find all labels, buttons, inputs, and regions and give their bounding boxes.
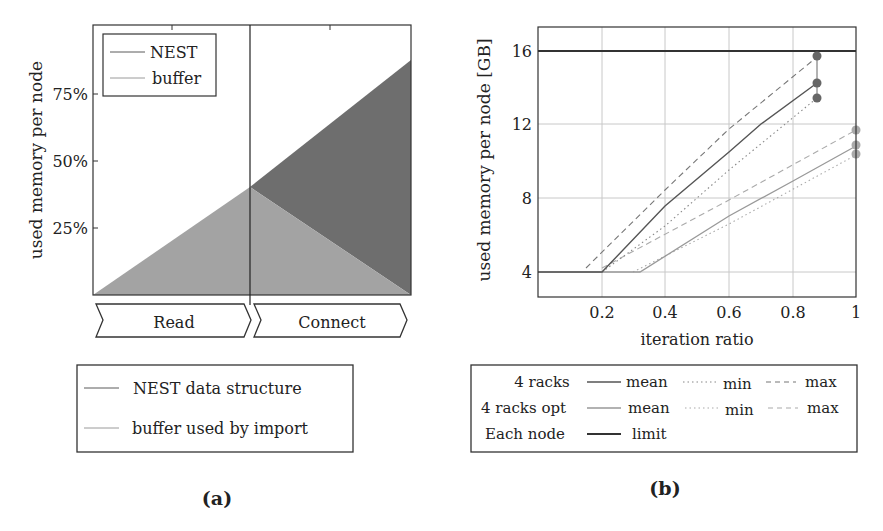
series-4-racks-mean bbox=[538, 83, 817, 272]
phase-label-read: Read bbox=[153, 313, 194, 332]
legend-label-nest-data-structure: NEST data structure bbox=[133, 379, 302, 398]
chart-b-xtick-1: 1 bbox=[851, 303, 861, 322]
legend-label-nest: NEST bbox=[150, 43, 198, 62]
legend-label-buffer-used-by-import: buffer used by import bbox=[132, 419, 309, 438]
chart-b-frame bbox=[538, 27, 856, 297]
chart-b-grid bbox=[538, 27, 856, 297]
legend-group-4-racks-opt: 4 racks opt bbox=[481, 399, 566, 417]
caption-a: (a) bbox=[202, 487, 232, 509]
chart-b-ylabel: used memory per node [GB] bbox=[474, 38, 494, 281]
chart-b-ytick-16: 16 bbox=[512, 42, 532, 61]
legend-group-4-racks: 4 racks bbox=[514, 373, 570, 391]
legend-4-racks-opt-max: max bbox=[807, 399, 839, 417]
series-4-racks-opt-min bbox=[633, 155, 856, 272]
chart-a: used memory per node 25% 50% 75% NEST bu… bbox=[0, 0, 450, 531]
phase-label-connect: Connect bbox=[298, 313, 366, 332]
legend-4-racks-max: max bbox=[805, 373, 837, 391]
chart-a-ytick-50: 50% bbox=[52, 152, 88, 171]
chart-b-xtick-0.2: 0.2 bbox=[589, 303, 614, 322]
legend-label-buffer: buffer bbox=[152, 69, 201, 88]
chart-a-ytick-25: 25% bbox=[52, 219, 88, 238]
legend-group-each-node: Each node bbox=[485, 425, 565, 443]
legend-4-racks-opt-min: min bbox=[725, 401, 754, 419]
chart-b-ytick-12: 12 bbox=[512, 115, 532, 134]
chart-b-xtick-0.8: 0.8 bbox=[780, 303, 805, 322]
marker-4-racks-max bbox=[813, 52, 822, 61]
legend-4-racks-opt-mean: mean bbox=[628, 399, 670, 417]
chart-b-xtick-0.6: 0.6 bbox=[716, 303, 741, 322]
series-4-racks-max bbox=[586, 57, 817, 268]
marker-4-racks-mean bbox=[813, 79, 822, 88]
chart-a-ytick-75: 75% bbox=[52, 85, 88, 104]
legend-4-racks-mean: mean bbox=[626, 373, 668, 391]
chart-b-xtick-0.4: 0.4 bbox=[652, 303, 677, 322]
series-4-racks-opt-mean bbox=[538, 146, 856, 272]
chart-a-ylabel: used memory per node bbox=[26, 61, 46, 259]
legend-each-node-limit: limit bbox=[632, 425, 667, 443]
chart-b-xlabel: iteration ratio bbox=[640, 330, 753, 349]
legend-4-racks-min: min bbox=[723, 375, 752, 393]
marker-4-racks-min bbox=[813, 94, 822, 103]
chart-b-ytick-8: 8 bbox=[522, 189, 532, 208]
caption-b: (b) bbox=[649, 477, 680, 499]
chart-b-ytick-4: 4 bbox=[522, 263, 532, 282]
chart-b: used memory per node [GB] 4 8 12 16 0.2 … bbox=[450, 0, 883, 531]
